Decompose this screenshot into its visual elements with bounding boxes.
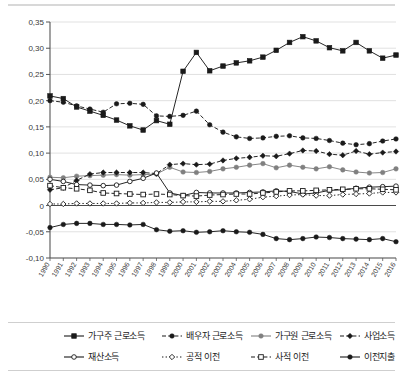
legend-label-3: 사업소득: [364, 329, 395, 342]
legend-label-5: 공적 이전: [186, 350, 220, 363]
data-point: [128, 179, 133, 184]
data-point: [181, 113, 186, 118]
data-point: [340, 192, 345, 197]
data-point: [314, 167, 319, 172]
legend-label-2: 가구원 근로소득: [275, 329, 332, 342]
data-point: [141, 128, 146, 133]
series-1: [48, 98, 399, 147]
x-tick-label: 1998: [143, 261, 157, 278]
data-point: [194, 194, 199, 199]
legend-item-1[interactable]: 배우자 근로소득: [161, 329, 250, 342]
data-point: [347, 333, 352, 338]
chart-page: 0,350,300,250,200,150,100,050-0,05-0,101…: [0, 0, 403, 377]
data-point: [167, 114, 172, 119]
data-point: [354, 186, 359, 191]
data-point: [394, 239, 399, 244]
data-point: [247, 155, 252, 160]
y-tick-label: 0: [40, 202, 45, 211]
x-tick-label: 2002: [197, 261, 211, 278]
line-chart: 0,350,300,250,200,150,100,050-0,05-0,101…: [0, 6, 403, 316]
legend-marker-open-diamond: [161, 351, 183, 363]
data-point: [354, 237, 359, 242]
x-tick-label: 1996: [117, 261, 131, 278]
data-point: [180, 199, 185, 204]
data-point: [234, 135, 239, 140]
data-point: [247, 230, 252, 235]
data-point: [301, 136, 306, 141]
data-point: [394, 167, 399, 172]
data-point: [394, 137, 399, 142]
legend-item-5[interactable]: 공적 이전: [161, 350, 250, 363]
legend-label-6: 사적 이전: [275, 350, 309, 363]
data-point: [48, 94, 53, 99]
data-point: [167, 200, 172, 205]
legend-item-4[interactable]: 재산소득: [8, 350, 161, 363]
legend-item-3[interactable]: 사업소득: [339, 329, 395, 342]
data-point: [128, 223, 133, 228]
legend-marker-open-square: [250, 351, 272, 363]
x-tick-label: 1990: [37, 261, 51, 278]
data-point: [261, 232, 266, 237]
data-point: [88, 107, 93, 112]
data-point: [260, 153, 265, 158]
data-point: [207, 229, 212, 234]
data-point: [274, 48, 279, 53]
data-point: [367, 191, 372, 196]
data-point: [154, 227, 159, 232]
x-tick-label: 2012: [330, 261, 344, 278]
data-point: [314, 136, 319, 141]
data-point: [234, 192, 239, 197]
legend-item-2[interactable]: 가구원 근로소득: [250, 329, 339, 342]
data-point: [287, 40, 292, 45]
data-point: [327, 138, 332, 143]
y-tick-label: 0,30: [28, 44, 44, 53]
legend-label-1: 배우자 근로소득: [186, 329, 243, 342]
data-point: [154, 118, 159, 123]
data-point: [101, 183, 106, 188]
y-tick-label: 0,20: [28, 97, 44, 106]
legend-marker-filled-circle-gray: [250, 330, 272, 342]
data-point: [141, 192, 146, 197]
data-point: [274, 236, 279, 241]
legend-divider-bottom: [8, 370, 395, 371]
y-tick-label: 0,05: [28, 175, 44, 184]
x-tick-label: 1994: [90, 261, 104, 278]
data-point: [167, 229, 172, 234]
legend-divider-top: [8, 322, 395, 323]
data-point: [380, 170, 385, 175]
data-point: [247, 163, 252, 168]
data-point: [207, 169, 212, 174]
data-point: [114, 118, 119, 123]
data-point: [327, 188, 332, 193]
x-tick-label: 2016: [383, 261, 397, 278]
data-point: [367, 151, 372, 156]
data-point: [380, 236, 385, 241]
y-tick-label: 0,25: [28, 70, 44, 79]
data-point: [287, 134, 292, 139]
data-point: [167, 192, 172, 197]
data-point: [220, 158, 225, 163]
legend-item-7[interactable]: 이전지출: [339, 350, 395, 363]
x-tick-label: 2008: [277, 261, 291, 278]
data-point: [141, 102, 146, 107]
legend-item-0[interactable]: 가구주 근로소득: [8, 329, 161, 342]
data-point: [181, 69, 186, 74]
data-point: [114, 102, 119, 107]
data-point: [127, 200, 132, 205]
legend-label-4: 재산소득: [88, 350, 119, 363]
data-point: [314, 235, 319, 240]
data-point: [354, 40, 359, 45]
data-point: [154, 114, 159, 119]
data-point: [354, 142, 359, 147]
data-point: [101, 191, 106, 196]
data-point: [247, 59, 252, 64]
data-point: [207, 68, 212, 73]
data-point: [221, 64, 226, 69]
series-2: [48, 161, 399, 180]
legend-item-6[interactable]: 사적 이전: [250, 350, 339, 363]
data-point: [380, 56, 385, 61]
series-0: [48, 34, 399, 132]
data-point: [207, 122, 212, 127]
legend-marker-filled-diamond: [339, 330, 361, 342]
data-point: [367, 141, 372, 146]
